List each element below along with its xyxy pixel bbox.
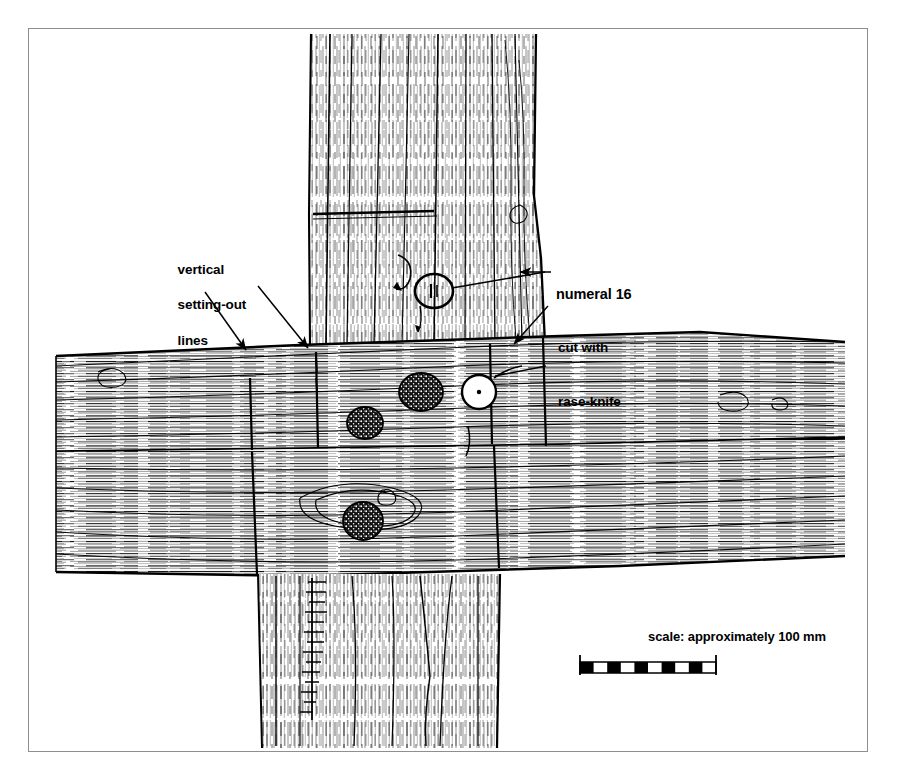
scale-bar	[580, 655, 716, 675]
peg-hole-upper-right	[399, 373, 443, 411]
numeral-label-line-3: rase-knife	[558, 393, 632, 411]
scale-caption: scale: approximately 100 mm	[648, 628, 826, 645]
label-line-3: lines	[178, 333, 208, 348]
vertical-post-upper	[300, 30, 555, 350]
peg-hole-upper-left	[347, 407, 383, 439]
numeral-label-line-1: numeral 16	[556, 285, 632, 304]
timber-joint-drawing	[0, 0, 898, 780]
label-setting-out-lines: vertical setting-out lines	[163, 243, 246, 368]
vertical-post-lower	[250, 570, 510, 752]
numeral-label-line-2: cut with	[558, 339, 632, 357]
figure-container: vertical setting-out lines numeral 16 cu…	[0, 0, 898, 780]
label-line-2: setting-out	[178, 297, 247, 312]
label-line-1: vertical	[178, 262, 224, 277]
horizontal-beam-lower	[50, 440, 850, 585]
label-numeral-16: numeral 16 cut with rase-knife	[556, 249, 632, 446]
peg-hole-lower	[343, 502, 383, 540]
